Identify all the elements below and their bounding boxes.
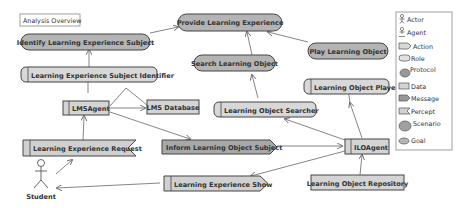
- svg-text:Learning Experience Show: Learning Experience Show: [174, 181, 272, 189]
- svg-text:LMSAgent: LMSAgent: [72, 105, 110, 113]
- goal-provide-learning-experience[interactable]: Provide Learning Experience: [177, 14, 284, 31]
- scenario-icon: [399, 121, 411, 131]
- svg-text:Identify Learning Experience S: Identify Learning Experience Subject: [17, 39, 155, 47]
- svg-text:Analysis Overview: Analysis Overview: [23, 17, 81, 25]
- svg-text:Learning Object Repository: Learning Object Repository: [307, 180, 409, 188]
- svg-text:Agent: Agent: [407, 29, 426, 37]
- svg-text:Learning Experience Request: Learning Experience Request: [33, 145, 142, 153]
- svg-text:Search Learning Object: Search Learning Object: [191, 60, 278, 68]
- goal-icon: [399, 138, 409, 144]
- data-lms-database[interactable]: LMS Database: [147, 100, 200, 114]
- action-icon: [399, 43, 411, 49]
- svg-text:Learning Object Player: Learning Object Player: [314, 84, 400, 92]
- svg-text:Learning Experience Subject Id: Learning Experience Subject Identifier: [31, 72, 175, 80]
- legend-item-action: Action: [399, 43, 433, 51]
- svg-text:Data: Data: [411, 83, 426, 91]
- diagram-title: Analysis Overview: [20, 14, 81, 26]
- svg-text:Play Learning Object: Play Learning Object: [309, 48, 386, 56]
- svg-text:Student: Student: [26, 193, 56, 201]
- role-learning-object-player[interactable]: Learning Object Player: [304, 79, 400, 94]
- svg-text:Actor: Actor: [407, 16, 424, 24]
- legend: Actor Agent Action Role Protocol Data: [396, 12, 452, 150]
- svg-text:Percept: Percept: [411, 108, 436, 116]
- goal-play-learning-object[interactable]: Play Learning Object: [308, 43, 388, 59]
- svg-text:Protocol: Protocol: [410, 66, 436, 74]
- legend-item-percept: Percept: [399, 108, 436, 116]
- goal-identify-learning-experience-subject[interactable]: Identify Learning Experience Subject: [17, 34, 155, 50]
- legend-item-goal: Goal: [399, 137, 426, 145]
- role-icon: [399, 55, 410, 61]
- agent-iloagent[interactable]: ILOAgent: [345, 139, 389, 154]
- svg-text:Role: Role: [411, 55, 425, 63]
- actor-student[interactable]: Student: [26, 160, 56, 202]
- message-icon: [399, 95, 410, 101]
- agent-lmsagent[interactable]: LMSAgent: [63, 101, 110, 115]
- actor-icon: [34, 160, 48, 189]
- svg-text:Scenario: Scenario: [413, 120, 441, 128]
- data-learning-object-repository[interactable]: Learning Object Repository: [307, 175, 409, 190]
- svg-text:ILOAgent: ILOAgent: [354, 144, 388, 152]
- message-inform-learning-object-subject[interactable]: Inform Learning Object Subject: [162, 140, 282, 154]
- svg-text:Action: Action: [413, 43, 433, 51]
- protocol-icon: [400, 69, 410, 77]
- svg-text:Provide Learning Experience: Provide Learning Experience: [177, 19, 284, 27]
- svg-text:LMS Database: LMS Database: [147, 104, 200, 112]
- svg-text:Learning Object Searcher: Learning Object Searcher: [224, 107, 319, 115]
- legend-item-role: Role: [399, 55, 425, 63]
- percept-learning-experience-request[interactable]: Learning Experience Request: [23, 140, 142, 156]
- data-icon: [399, 83, 409, 89]
- svg-text:Goal: Goal: [411, 137, 426, 145]
- role-learning-object-searcher[interactable]: Learning Object Searcher: [214, 102, 319, 117]
- svg-text:Message: Message: [411, 95, 439, 103]
- action-learning-experience-show[interactable]: Learning Experience Show: [164, 176, 272, 191]
- role-learning-experience-subject-identifier[interactable]: Learning Experience Subject Identifier: [21, 67, 175, 82]
- goal-search-learning-object[interactable]: Search Learning Object: [191, 55, 278, 71]
- svg-text:Inform Learning Object Subject: Inform Learning Object Subject: [166, 144, 282, 152]
- analysis-overview-diagram: Analysis Overview Provide Learning Exper…: [0, 0, 457, 208]
